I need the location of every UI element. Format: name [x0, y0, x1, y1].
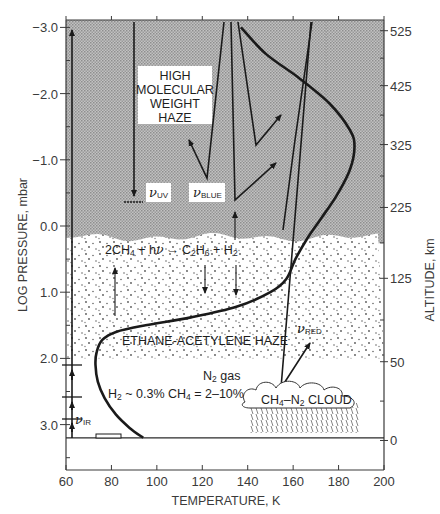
- n2-gas-label: N2 gas: [203, 369, 240, 384]
- haze-label-line-1: HIGH: [159, 69, 190, 83]
- x-tick-label: 140: [237, 474, 259, 489]
- right-tick-label: 525: [390, 24, 412, 39]
- x-tick-label: 80: [104, 474, 118, 489]
- titan-atmosphere-diagram: 6080100120140160180200 −3.0−2.0−1.00.01.…: [0, 0, 440, 514]
- ethane-acetylene-haze-label: ETHANE-ACETYLENE HAZE: [122, 334, 288, 348]
- right-axis-ticks: 525425325225125500: [380, 24, 412, 449]
- right-tick-label: 425: [390, 79, 412, 94]
- nu-uv-label: νUV: [146, 183, 171, 202]
- nu-uv-subscript: UV: [157, 191, 169, 200]
- x-axis-title: TEMPERATURE, K: [172, 494, 281, 508]
- nu-ir-subscript: IR: [83, 418, 91, 427]
- nu-symbol: ν: [149, 185, 157, 200]
- surface-temperature-marker: [96, 434, 121, 438]
- ch4-n2-cloud: CH4–N2 CLOUD: [242, 381, 360, 433]
- haze-label-line-3: WEIGHT: [150, 97, 200, 111]
- right-tick-label: 50: [390, 355, 404, 370]
- nu-red-subscript: RED: [305, 327, 322, 336]
- right-tick-label: 0: [390, 433, 397, 448]
- haze-label-line-4: HAZE: [158, 111, 191, 125]
- x-tick-label: 160: [282, 474, 304, 489]
- x-tick-label: 60: [59, 474, 73, 489]
- right-tick-label: 325: [390, 138, 412, 153]
- x-tick-label: 200: [373, 474, 395, 489]
- left-tick-label: 0.0: [40, 219, 58, 234]
- nu-blue-label: νBLUE: [189, 183, 225, 202]
- left-axis-title: LOG PRESSURE, mbar: [16, 178, 30, 312]
- right-tick-label: 225: [390, 200, 412, 215]
- left-tick-label: −3.0: [32, 20, 58, 35]
- nu-symbol: ν: [193, 185, 201, 200]
- x-tick-label: 100: [146, 474, 168, 489]
- photochemistry-reaction: 2CH4 + hν→C2H6 + H2: [105, 242, 238, 258]
- left-tick-label: 2.0: [40, 351, 58, 366]
- right-axis-title: ALTITUDE, km: [423, 238, 437, 321]
- high-molecular-weight-haze-region: [66, 20, 384, 243]
- x-tick-label: 120: [191, 474, 213, 489]
- composition-label: H2 ~ 0.3% CH4 = 2–10%: [108, 387, 244, 402]
- nu-blue-subscript: BLUE: [201, 191, 222, 200]
- left-tick-label: 3.0: [40, 418, 58, 433]
- left-axis-ticks: −3.0−2.0−1.00.01.02.03.0: [32, 20, 70, 457]
- x-tick-label: 180: [328, 474, 350, 489]
- cloud-label: CH4–N2 CLOUD: [261, 393, 352, 408]
- nu-ir-label: νIR: [75, 412, 91, 427]
- nu-symbol: ν: [75, 412, 83, 427]
- right-tick-label: 125: [390, 271, 412, 286]
- left-tick-label: 1.0: [40, 285, 58, 300]
- haze-label-box: HIGH MOLECULAR WEIGHT HAZE: [136, 66, 214, 125]
- left-tick-label: −2.0: [32, 87, 58, 102]
- left-tick-label: −1.0: [32, 153, 58, 168]
- nu-symbol: ν: [297, 321, 305, 336]
- haze-label-line-2: MOLECULAR: [136, 83, 214, 97]
